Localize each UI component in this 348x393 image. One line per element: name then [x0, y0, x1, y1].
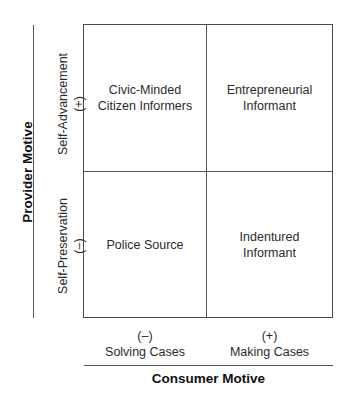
- quadrant-bottom-left-line1: Police Source: [106, 237, 183, 253]
- quadrant-bottom-right-line1: Indentured: [240, 229, 300, 245]
- x-left-label-sign: (–): [84, 328, 206, 344]
- x-axis-title: Consumer Motive: [84, 371, 333, 386]
- x-right-label-sign: (+): [207, 328, 332, 344]
- x-right-label-text: Making Cases: [207, 344, 332, 360]
- matrix-grid: Civic-Minded Citizen Informers Entrepren…: [83, 24, 333, 318]
- x-axis-right-label: (+) Making Cases: [207, 328, 332, 360]
- quadrant-top-right-line1: Entrepreneurial: [227, 82, 312, 98]
- x-axis-line: [84, 365, 333, 366]
- quadrant-bottom-right-line2: Informant: [240, 245, 300, 261]
- y-axis-title: Provider Motive: [19, 112, 37, 232]
- quadrant-top-left: Civic-Minded Citizen Informers: [84, 25, 206, 171]
- quadrant-bottom-right: Indentured Informant: [207, 172, 332, 317]
- quadrant-top-right: Entrepreneurial Informant: [207, 25, 332, 171]
- quadrant-bottom-left: Police Source: [84, 172, 206, 317]
- quadrant-top-left-line2: Citizen Informers: [98, 98, 192, 114]
- x-left-label-text: Solving Cases: [84, 344, 206, 360]
- y-bottom-label-text: Self-Preservation: [55, 186, 71, 306]
- quadrant-top-right-line2: Informant: [227, 98, 312, 114]
- quadrant-top-left-line1: Civic-Minded: [98, 82, 192, 98]
- y-top-label-text: Self-Advancement: [55, 44, 71, 164]
- x-axis-left-label: (–) Solving Cases: [84, 328, 206, 360]
